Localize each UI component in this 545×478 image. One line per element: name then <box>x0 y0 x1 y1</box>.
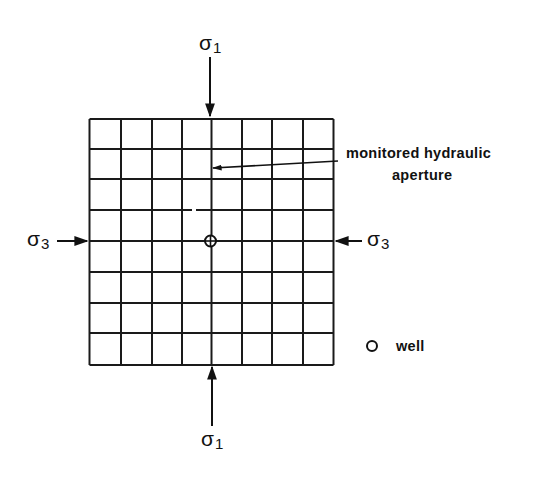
sigma-symbol: σ <box>367 227 380 250</box>
legend-well-label: well <box>396 339 425 354</box>
sigma1-top-label: σ1 <box>199 32 221 55</box>
sigma3-right-label: σ3 <box>367 228 389 251</box>
sigma-subscript: 3 <box>381 235 389 252</box>
sigma-subscript: 1 <box>215 435 223 452</box>
sigma-subscript: 1 <box>213 39 221 56</box>
grid-line-gap <box>192 207 196 213</box>
sigma1-bottom-label: σ1 <box>201 428 223 451</box>
sigma-symbol: σ <box>199 31 212 54</box>
legend-well-circle-icon <box>367 341 377 351</box>
annotation-line2: aperture <box>392 168 452 183</box>
sigma3-left-label: σ3 <box>27 228 49 251</box>
annotation-line1: monitored hydraulic <box>346 146 491 161</box>
sigma-symbol: σ <box>27 227 40 250</box>
annotation-pointer-arrow-icon <box>213 161 338 168</box>
sigma-symbol: σ <box>201 427 214 450</box>
sigma-subscript: 3 <box>41 235 49 252</box>
well-marker-icon <box>205 236 216 247</box>
stress-grid-diagram <box>0 0 545 478</box>
